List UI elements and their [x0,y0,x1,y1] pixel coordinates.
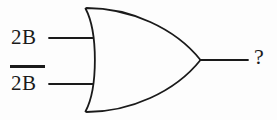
input-label-a: 2B [11,27,37,48]
gate-drawing [0,0,277,120]
input-b-overbar [10,65,45,68]
input-label-b: 2B [11,73,37,94]
output-label: ? [254,46,264,68]
input-label-b-wrapper: 2B [11,73,37,94]
logic-gate-diagram: 2B 2B ? [0,0,277,120]
or-gate-shape [86,8,201,112]
